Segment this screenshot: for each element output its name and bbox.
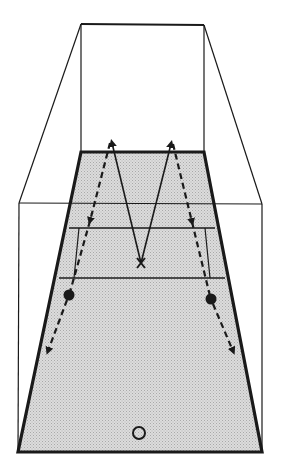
- court-diagram: [0, 0, 281, 474]
- player-right-dot-icon: [206, 294, 217, 305]
- court-floor: [18, 152, 262, 452]
- player-left-dot-icon: [64, 290, 75, 301]
- back-wall: [81, 24, 204, 152]
- diagram-canvas: [0, 0, 281, 474]
